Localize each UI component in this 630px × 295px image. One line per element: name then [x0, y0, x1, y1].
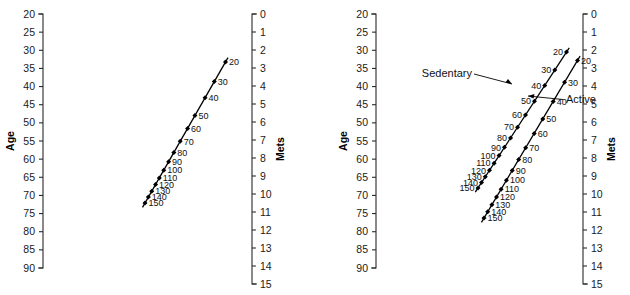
age-tick-label: 80	[23, 225, 35, 237]
age-tick-label: 40	[23, 80, 35, 92]
nomogram-point	[171, 150, 176, 155]
age-tick-label: 65	[356, 171, 368, 183]
panel-right: 202530354045505560657075808590Age0123456…	[337, 8, 617, 290]
mets-tick-label: 15	[260, 278, 272, 290]
age-tick-label: 85	[23, 243, 35, 255]
mets-tick-label: 1	[591, 26, 597, 38]
age-tick-label: 90	[23, 262, 35, 274]
nomogram-point-label: 30	[218, 77, 228, 87]
mets-tick-label: 13	[260, 242, 272, 254]
nomogram-point	[203, 95, 208, 100]
age-tick-label: 75	[356, 207, 368, 219]
age-axis: 202530354045505560657075808590Age	[337, 8, 376, 274]
mets-tick-label: 8	[591, 152, 597, 164]
nomogram-point-label: 70	[504, 122, 514, 132]
nomogram-point-label: 50	[198, 111, 208, 121]
age-tick-label: 75	[23, 207, 35, 219]
nomogram-point	[212, 79, 217, 84]
age-tick-label: 45	[356, 98, 368, 110]
age-tick-label: 70	[356, 189, 368, 201]
nomogram-point-label: 70	[184, 137, 194, 147]
age-tick-label: 40	[356, 80, 368, 92]
nomogram-point-label: 50	[521, 96, 531, 106]
age-tick-label: 25	[23, 26, 35, 38]
age-tick-label: 30	[23, 44, 35, 56]
nomogram-point	[178, 139, 183, 144]
mets-tick-label: 6	[591, 116, 597, 128]
mets-tick-label: 6	[260, 116, 266, 128]
nomogram-point-label: 20	[229, 57, 239, 67]
nomogram-point-label: 50	[546, 114, 556, 124]
nomogram-point-label: 40	[209, 93, 219, 103]
nomogram-point-label: 40	[531, 81, 541, 91]
nomogram-point	[185, 126, 190, 131]
mets-tick-label: 10	[591, 188, 603, 200]
mets-tick-label: 12	[260, 224, 272, 236]
nomogram-point-label: 20	[581, 56, 591, 66]
mets-tick-label: 11	[591, 206, 602, 218]
age-axis-title: Age	[337, 131, 349, 151]
mets-tick-label: 7	[591, 134, 597, 146]
age-tick-label: 55	[23, 135, 35, 147]
mets-axis: 0123456789101112131415Mets	[252, 8, 286, 290]
mets-axis-title: Mets	[274, 137, 286, 161]
mets-tick-label: 0	[591, 8, 597, 20]
age-axis: 202530354045505560657075808590Age	[4, 8, 43, 274]
mets-tick-label: 4	[260, 80, 266, 92]
nomogram-point	[161, 168, 166, 173]
mets-axis: 0123456789101112131415Mets	[583, 8, 617, 290]
nomogram-point-label: 60	[191, 124, 201, 134]
sedentary-annotation: Sedentary	[422, 67, 512, 85]
age-tick-label: 55	[356, 135, 368, 147]
nomogram-point-label: 70	[529, 143, 539, 153]
mets-tick-label: 11	[260, 206, 271, 218]
age-tick-label: 50	[23, 116, 35, 128]
nomogram-point-label: 150	[488, 213, 503, 223]
nomogram-point-label: 60	[538, 129, 548, 139]
nomogram-point	[223, 60, 228, 65]
nomogram-point-label: 60	[512, 110, 522, 120]
age-tick-label: 45	[23, 98, 35, 110]
age-tick-label: 80	[356, 225, 368, 237]
mets-tick-label: 8	[260, 152, 266, 164]
age-tick-label: 60	[23, 153, 35, 165]
nomogram-figure: 202530354045505560657075808590Age0123456…	[0, 0, 630, 295]
mets-tick-label: 1	[260, 26, 266, 38]
mets-tick-label: 13	[591, 242, 603, 254]
mets-tick-label: 9	[591, 170, 597, 182]
mets-axis-title: Mets	[605, 137, 617, 161]
mets-tick-label: 3	[260, 62, 266, 74]
nomogram-point	[192, 113, 197, 118]
nomogram-point	[166, 159, 171, 164]
mets-tick-label: 14	[591, 260, 603, 272]
sedentary-label: Sedentary	[422, 67, 473, 79]
nomogram-point-label: 150	[149, 198, 164, 208]
age-tick-label: 20	[23, 8, 35, 20]
age-tick-label: 85	[356, 243, 368, 255]
age-axis-title: Age	[4, 131, 16, 151]
nomogram-point-label: 30	[568, 78, 578, 88]
nomogram-point-label: 150	[459, 183, 474, 193]
mets-tick-label: 9	[260, 170, 266, 182]
panel-left: 202530354045505560657075808590Age0123456…	[4, 8, 286, 290]
age-tick-label: 35	[23, 62, 35, 74]
mets-tick-label: 0	[260, 8, 266, 20]
mets-tick-label: 7	[260, 134, 266, 146]
age-tick-label: 90	[356, 262, 368, 274]
mets-tick-label: 10	[260, 188, 272, 200]
age-tick-label: 25	[356, 26, 368, 38]
mets-tick-label: 4	[591, 80, 597, 92]
mets-tick-label: 14	[260, 260, 272, 272]
mets-tick-label: 2	[260, 44, 266, 56]
age-tick-label: 50	[356, 116, 368, 128]
age-tick-label: 65	[23, 171, 35, 183]
mets-tick-label: 2	[591, 44, 597, 56]
nomogram-point-label: 80	[522, 155, 532, 165]
mets-tick-label: 5	[260, 98, 266, 110]
age-tick-label: 60	[356, 153, 368, 165]
nomogram-point-label: 30	[541, 65, 551, 75]
age-tick-label: 30	[356, 44, 368, 56]
nomogram-point-label: 90	[516, 166, 526, 176]
age-tick-label: 35	[356, 62, 368, 74]
mets-tick-label: 12	[591, 224, 603, 236]
